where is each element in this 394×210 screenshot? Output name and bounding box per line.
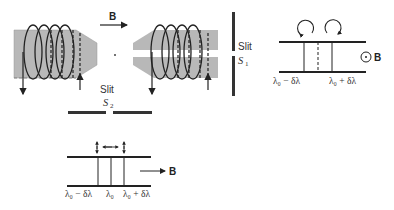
svg-text:2: 2 (110, 102, 114, 110)
center-wavelength-label: λ₀ (106, 189, 114, 199)
upper-wavelength-label: λ₀ + δλ (329, 76, 357, 86)
source-dot (114, 54, 116, 56)
clockwise-polarization-icon (325, 20, 341, 34)
counterclockwise-polarization-icon (298, 20, 314, 34)
right-magnet-pole (133, 25, 218, 94)
upper-wavelength-label: λ₀ + δλ (123, 189, 151, 199)
slit-s1: Slit S 1 (232, 12, 252, 96)
svg-text:1: 1 (245, 60, 249, 68)
field-label: B (109, 11, 116, 22)
zeeman-effect-diagram: B Slit S 1 Slit S 2 (0, 0, 394, 210)
slit-s1-label: Slit (238, 41, 252, 52)
svg-text:B: B (374, 52, 381, 63)
left-magnet-pole (14, 25, 97, 94)
slit-s2-label: Slit (100, 84, 114, 95)
svg-text:B: B (169, 166, 176, 177)
lower-wavelength-label: λ₀ − δλ (273, 76, 301, 86)
field-arrow: B (100, 11, 127, 25)
svg-text:S: S (238, 55, 244, 66)
svg-text:S: S (103, 97, 109, 108)
longitudinal-zeeman-view: B λ₀ − δλ λ₀ λ₀ + δλ (65, 142, 176, 199)
transverse-zeeman-view: B λ₀ − δλ λ₀ + δλ (273, 20, 381, 86)
lower-wavelength-label: λ₀ − δλ (65, 189, 93, 199)
